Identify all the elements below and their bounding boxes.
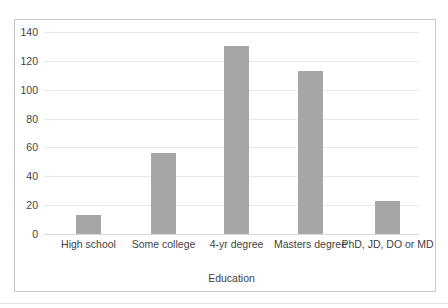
y-tick-label-140: 140: [20, 27, 38, 38]
bar-high-school[interactable]: [76, 215, 101, 234]
y-tick-label-120: 120: [20, 56, 38, 67]
y-tick-label-20: 20: [26, 200, 38, 211]
bar-4-yr-degree[interactable]: [224, 46, 249, 234]
chart-frame: 140 120 100 80 60 40 20 0 High school: [14, 19, 436, 292]
bar-masters-degree[interactable]: [298, 71, 323, 234]
bar-phd-jd-do-or-md[interactable]: [375, 201, 400, 234]
page-divider: [0, 303, 448, 304]
plot-area: 140 120 100 80 60 40 20 0 High school: [44, 32, 419, 234]
y-tick-label-60: 60: [26, 142, 38, 153]
gridline-140: 140: [44, 32, 419, 33]
x-tick-label-phd-jd-do-or-md: PhD, JD, DO or MD: [338, 238, 437, 251]
y-tick-label-100: 100: [20, 84, 38, 95]
gridline-0-baseline: 0: [44, 234, 419, 235]
y-tick-label-40: 40: [26, 171, 38, 182]
y-tick-label-0: 0: [32, 229, 38, 240]
y-tick-label-80: 80: [26, 113, 38, 124]
bar-some-college[interactable]: [151, 153, 176, 234]
x-axis-title: Education: [44, 272, 419, 284]
